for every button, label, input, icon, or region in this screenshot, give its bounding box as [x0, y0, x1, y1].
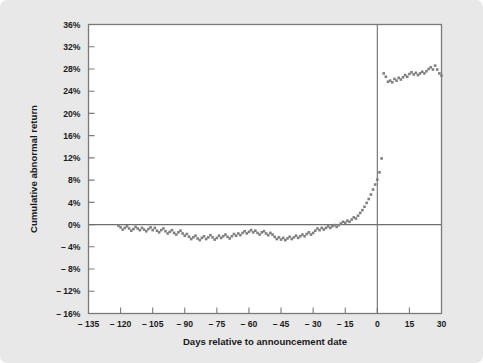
data-point	[438, 72, 441, 75]
y-tick-label: 36%	[63, 20, 81, 30]
data-point	[282, 237, 285, 240]
data-point	[378, 171, 381, 174]
x-tick-label: – 75	[208, 319, 225, 329]
data-point	[158, 231, 161, 234]
data-point	[250, 229, 253, 232]
data-point	[436, 68, 439, 71]
data-point	[367, 198, 370, 201]
data-point	[164, 230, 167, 233]
y-tick-label: 0%	[68, 220, 81, 230]
data-point	[303, 235, 306, 238]
y-tick-label: 8%	[68, 175, 81, 185]
data-point	[423, 72, 426, 75]
figure-inner: – 16%– 12%– 8%– 4%0%4%8%12%16%20%24%28%3…	[0, 0, 483, 363]
data-point	[278, 236, 281, 239]
data-point	[254, 229, 257, 232]
data-point	[181, 232, 184, 235]
data-point	[357, 214, 360, 217]
y-tick-label: – 16%	[56, 309, 81, 319]
x-tick-label: – 135	[78, 319, 100, 329]
plot-background	[89, 25, 442, 314]
data-point	[258, 233, 261, 236]
data-point	[372, 188, 375, 191]
data-point	[361, 209, 364, 212]
data-point	[211, 236, 214, 239]
data-point	[271, 233, 274, 236]
data-point	[314, 229, 317, 232]
data-point	[273, 236, 276, 239]
data-point	[365, 202, 368, 205]
data-point	[415, 72, 418, 75]
data-point	[400, 78, 403, 81]
data-point	[374, 183, 377, 186]
y-tick-label: 16%	[63, 131, 81, 141]
x-tick-label: – 105	[142, 319, 164, 329]
data-point	[154, 227, 157, 230]
data-point	[243, 230, 246, 233]
x-tick-label: 15	[405, 319, 415, 329]
figure-panel: – 16%– 12%– 8%– 4%0%4%8%12%16%20%24%28%3…	[0, 0, 483, 363]
cumulative-abnormal-return-chart: – 16%– 12%– 8%– 4%0%4%8%12%16%20%24%28%3…	[0, 0, 483, 363]
data-point	[149, 226, 152, 229]
y-tick-label: 12%	[63, 153, 81, 163]
y-tick-label: 20%	[63, 109, 81, 119]
data-point	[231, 235, 234, 238]
x-tick-label: – 15	[337, 319, 354, 329]
y-tick-label: 24%	[63, 86, 81, 96]
x-tick-label: – 90	[176, 319, 193, 329]
data-point	[188, 236, 191, 239]
x-tick-label: – 120	[110, 319, 132, 329]
data-point	[376, 178, 379, 181]
data-point	[430, 66, 433, 69]
data-point	[263, 230, 266, 233]
x-axis-title: Days relative to announcement date	[183, 336, 347, 347]
data-point	[308, 231, 311, 234]
data-point	[295, 234, 298, 237]
data-point	[132, 228, 135, 231]
data-point	[318, 229, 321, 232]
data-point	[198, 239, 201, 242]
data-point	[126, 225, 129, 228]
data-point	[186, 233, 189, 236]
data-point	[209, 234, 212, 237]
y-axis-title: Cumulative abnormal return	[28, 105, 39, 233]
x-tick-label: – 60	[241, 319, 258, 329]
data-point	[348, 220, 351, 223]
data-point	[194, 234, 197, 237]
data-point	[145, 230, 148, 233]
data-point	[406, 75, 409, 78]
x-tick-label: – 45	[273, 319, 290, 329]
data-point	[207, 236, 210, 239]
data-point	[119, 226, 122, 229]
data-point	[235, 234, 238, 237]
data-point	[355, 217, 358, 220]
data-point	[267, 234, 270, 237]
y-tick-label: 32%	[63, 42, 81, 52]
x-tick-label: 30	[437, 319, 447, 329]
data-point	[434, 64, 437, 67]
data-point	[425, 70, 428, 73]
data-point	[382, 72, 385, 75]
y-tick-label: – 4%	[61, 242, 81, 252]
data-point	[395, 79, 398, 82]
y-tick-label: 28%	[63, 64, 81, 74]
data-point	[410, 71, 413, 74]
data-point	[312, 232, 315, 235]
data-point	[391, 81, 394, 84]
data-point	[203, 235, 206, 238]
data-point	[139, 229, 142, 232]
data-point	[344, 222, 347, 225]
data-point	[151, 229, 154, 232]
data-point	[224, 233, 227, 236]
x-tick-label: 0	[375, 319, 380, 329]
data-point	[216, 237, 219, 240]
data-point	[128, 227, 131, 230]
data-point	[370, 193, 373, 196]
x-tick-label: – 30	[305, 319, 322, 329]
data-point	[228, 237, 231, 240]
data-point	[350, 218, 353, 221]
data-point	[162, 227, 165, 230]
data-point	[171, 229, 174, 232]
data-point	[385, 75, 388, 78]
data-point	[359, 212, 362, 215]
